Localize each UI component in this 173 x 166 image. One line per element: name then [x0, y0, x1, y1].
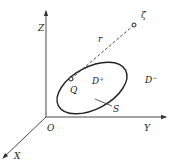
y-axis-label: Y — [144, 123, 151, 133]
region-exterior-sup: − — [152, 74, 157, 81]
origin-label: O — [47, 123, 55, 133]
region-exterior-label: D− — [144, 74, 157, 85]
boundary-s-label: S — [113, 104, 119, 114]
z-axis-label: Z — [37, 23, 45, 33]
point-zeta-marker — [132, 23, 136, 27]
diagram-canvas: Z Y X O r ζ Q S D+ D− — [0, 0, 173, 166]
segment-r-label: r — [98, 34, 103, 44]
region-exterior-base: D — [144, 75, 152, 85]
point-zeta-label: ζ — [141, 10, 147, 20]
segment-r-dashed — [71, 25, 134, 79]
x-axis-label: X — [13, 151, 21, 161]
region-interior-sup: + — [99, 75, 104, 82]
region-interior-label: D+ — [91, 75, 104, 86]
boundary-s-ellipse — [49, 52, 136, 125]
point-q-label: Q — [70, 85, 78, 95]
point-q-marker — [69, 77, 73, 81]
region-interior-base: D — [91, 76, 99, 86]
x-axis — [3, 117, 46, 158]
